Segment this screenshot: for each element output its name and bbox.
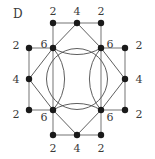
graph-chord-edge [29,79,53,110]
graph-node[interactable] [50,132,56,138]
graph-diagram-svg [0,0,155,159]
graph-node[interactable] [74,20,80,26]
graph-chord-edge [77,23,101,48]
graph-chord-edge [101,48,125,79]
node-value-label: 2 [50,6,57,17]
node-value-label: 2 [13,109,20,120]
node-value-label: 2 [50,143,57,154]
node-value-label: 2 [98,143,105,154]
graph-node[interactable] [50,107,56,113]
node-value-label: 4 [74,6,81,17]
node-value-label: 4 [74,143,81,154]
node-value-label: 2 [136,40,143,51]
graph-arc-edge [89,48,101,110]
node-value-label: 2 [136,109,143,120]
graph-chord-edge [53,110,77,135]
figure-panel-d: D 2422662442662242 [0,0,155,159]
graph-node[interactable] [98,132,104,138]
graph-chord-edge [77,110,101,135]
graph-node[interactable] [50,20,56,26]
graph-node[interactable] [98,107,104,113]
graph-node[interactable] [26,76,32,82]
graph-node[interactable] [26,107,32,113]
node-value-label: 6 [107,39,114,50]
graph-arc-edge [53,48,65,110]
graph-node[interactable] [122,45,128,51]
graph-chord-edge [53,23,77,48]
graph-node[interactable] [74,132,80,138]
node-value-label: 6 [41,39,48,50]
graph-node[interactable] [98,45,104,51]
node-value-label: 4 [136,74,143,85]
node-value-label: 2 [13,40,20,51]
graph-node[interactable] [122,76,128,82]
graph-chord-edge [29,48,53,79]
node-value-label: 2 [98,6,105,17]
inscribed-circle [47,49,108,110]
graph-node[interactable] [26,45,32,51]
graph-node[interactable] [50,45,56,51]
arc-edges-group [53,48,101,110]
graph-node[interactable] [98,20,104,26]
node-value-label: 6 [107,112,114,123]
graph-chord-edge [101,79,125,110]
node-value-label: 4 [13,74,20,85]
graph-node[interactable] [122,107,128,113]
node-value-label: 6 [41,112,48,123]
